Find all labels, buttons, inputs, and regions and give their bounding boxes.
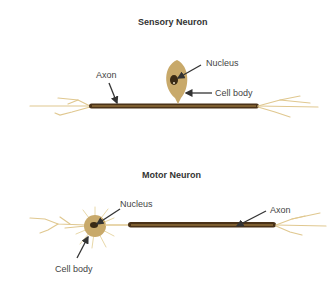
sensory-neuron [30,60,318,117]
sensory-axon-label: Axon [96,70,117,80]
motor-right-dendrites [276,213,326,235]
sensory-axon [89,104,259,109]
motor-left-dendrites [30,217,86,233]
motor-nucleus-label: Nucleus [120,199,153,209]
motor-cellbody-label: Cell body [55,264,93,274]
sensory-nucleus-label: Nucleus [206,58,239,68]
sensory-right-dendrites [258,96,318,117]
sensory-axon-arrow [109,83,117,103]
motor-axon-label: Axon [270,205,291,215]
motor-axon [128,222,276,228]
motor-nucleus [90,222,98,228]
motor-cellbody-arrow [77,237,88,258]
sensory-cellbody-label: Cell body [215,88,253,98]
sensory-left-dendrites [30,98,90,115]
neuron-diagram [0,0,334,294]
